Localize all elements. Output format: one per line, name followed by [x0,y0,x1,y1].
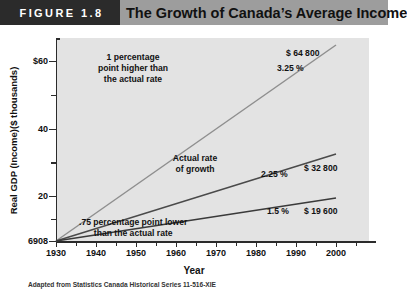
end-value-higher: $ 64 800 [286,48,319,59]
x-axis-title: Year [0,265,388,276]
source-note: Adapted from Statistics Canada Historica… [28,281,216,288]
figure-number-badge: FIGURE 1.8 [0,0,120,25]
annotation-upper: 1 percentage point higher than the actua… [78,52,188,85]
annotation-middle: Actual rate of growth [155,153,235,175]
annotation-lower-line1: .75 percentage point lower [79,217,187,228]
annotation-upper-line3: the actual rate [78,74,188,85]
rate-label-lower: 1.5 % [267,206,289,217]
annotation-upper-line1: 1 percentage [78,52,188,63]
figure-title: The Growth of Canada’s Average Income [126,0,407,25]
figure-header: FIGURE 1.8 The Growth of Canada’s Averag… [0,0,388,25]
end-value-lower: $ 19 600 [304,206,337,217]
y-axis-title: Real GDP (Income)($ thousands) [8,46,19,236]
annotation-lower: .75 percentage point lower than the actu… [79,217,187,239]
annotation-lower-line2: than the actual rate [79,228,187,239]
annotation-middle-line2: of growth [155,164,235,175]
annotation-middle-line1: Actual rate [155,153,235,164]
rate-label-actual: 2.25 % [261,169,288,180]
end-value-actual: $ 32 800 [304,163,337,174]
rate-label-higher: 3.25 % [277,63,304,74]
annotation-upper-line2: point higher than [78,63,188,74]
chart-container: $60 40 20 6908 1930 1940 1950 1960 1970 … [0,25,388,291]
